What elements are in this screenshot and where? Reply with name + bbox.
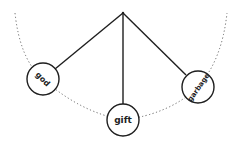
node-god: god	[27, 63, 59, 95]
node-gift: gift	[107, 104, 139, 136]
string-god	[55, 13, 123, 69]
string-garbage	[123, 13, 186, 75]
node-garbage: garbage	[182, 71, 214, 103]
pendulum-diagram: god gift garbage	[0, 0, 241, 146]
node-gift-label: gift	[114, 115, 132, 125]
pivot-point	[122, 12, 124, 14]
